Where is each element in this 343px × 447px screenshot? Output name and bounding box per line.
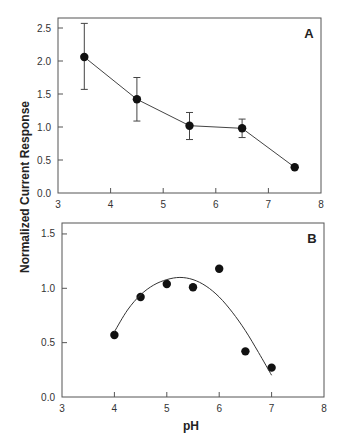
x-axis-label: pH — [183, 419, 199, 433]
figure: 3456780.00.51.01.52.02.5A 3456780.00.51.… — [0, 0, 343, 447]
y-axis-label: Normalized Current Response — [18, 101, 32, 273]
x-tick-label: 7 — [269, 403, 275, 414]
y-tick-label: 2.0 — [37, 56, 51, 67]
data-point — [185, 121, 193, 129]
data-point — [238, 124, 246, 132]
y-tick-label: 2.5 — [37, 23, 51, 34]
x-tick-label: 6 — [213, 199, 219, 210]
panel-label: A — [304, 26, 314, 41]
x-tick-label: 4 — [108, 199, 114, 210]
y-tick-label: 1.0 — [37, 122, 51, 133]
panel-a-chart: 3456780.00.51.01.52.02.5A — [37, 18, 324, 210]
fit-curve — [114, 277, 271, 375]
x-tick-label: 5 — [164, 403, 170, 414]
x-tick-label: 7 — [266, 199, 272, 210]
data-point — [291, 163, 299, 171]
y-tick-label: 0.0 — [37, 188, 51, 199]
y-tick-label: 1.0 — [41, 283, 55, 294]
x-tick-label: 4 — [112, 403, 118, 414]
plot-frame — [62, 223, 324, 397]
x-tick-label: 5 — [160, 199, 166, 210]
x-tick-label: 3 — [55, 199, 61, 210]
x-tick-label: 8 — [318, 199, 324, 210]
data-point — [80, 53, 88, 61]
y-tick-label: 0.5 — [41, 337, 55, 348]
x-tick-label: 8 — [321, 403, 327, 414]
data-point — [241, 347, 249, 355]
panel-b-chart: 3456780.00.51.01.5B — [41, 223, 327, 414]
data-point — [189, 283, 197, 291]
panel-label: B — [307, 231, 316, 246]
plot-frame — [58, 18, 321, 193]
x-tick-label: 3 — [59, 403, 65, 414]
y-tick-label: 1.5 — [37, 89, 51, 100]
y-tick-label: 0.0 — [41, 392, 55, 403]
data-point — [133, 95, 141, 103]
y-tick-label: 1.5 — [41, 228, 55, 239]
data-point — [136, 293, 144, 301]
data-point — [110, 331, 118, 339]
data-point — [215, 265, 223, 273]
y-tick-label: 0.5 — [37, 155, 51, 166]
x-tick-label: 6 — [216, 403, 222, 414]
